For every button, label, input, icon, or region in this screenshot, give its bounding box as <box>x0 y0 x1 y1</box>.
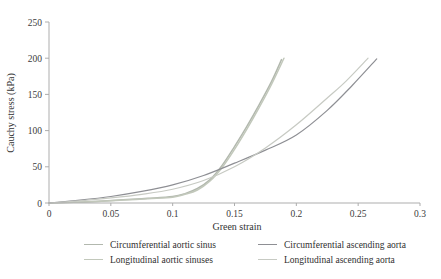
legend-line-icon <box>258 259 277 260</box>
legend-item-longitudinal-aortic-sinuses: Longitudinal aortic sinuses <box>84 252 216 267</box>
legend-column-left: Circumferential aortic sinus Longitudina… <box>84 237 216 267</box>
y-tick-label: 150 <box>28 90 43 100</box>
x-tick-label: 0 <box>47 209 52 219</box>
legend-item-circumferential-aortic-sinus: Circumferential aortic sinus <box>84 237 216 252</box>
curve-group <box>49 58 377 203</box>
legend: Circumferential aortic sinus Longitudina… <box>0 237 441 273</box>
legend-label: Longitudinal ascending aorta <box>284 255 395 265</box>
y-tick-label: 200 <box>28 54 43 64</box>
y-axis-label: Cauchy stress (kPa) <box>5 73 17 152</box>
legend-label: Circumferential ascending aorta <box>284 240 406 250</box>
stress-strain-figure: 05010015020025000.050.10.150.20.250.3 Gr… <box>0 0 441 279</box>
legend-label: Longitudinal aortic sinuses <box>110 255 213 265</box>
series-curve <box>49 59 377 203</box>
series-curve <box>49 60 281 203</box>
y-tick-label: 100 <box>28 126 43 136</box>
x-axis-label: Green strain <box>212 221 261 232</box>
legend-column-right: Circumferential ascending aorta Longitud… <box>258 237 406 267</box>
legend-item-circumferential-ascending-aorta: Circumferential ascending aorta <box>258 237 406 252</box>
y-tick-label: 250 <box>28 18 43 28</box>
y-tick-label: 0 <box>37 199 42 209</box>
chart-canvas: 05010015020025000.050.10.150.20.250.3 Gr… <box>0 0 441 236</box>
tick-group: 05010015020025000.050.10.150.20.250.3 <box>28 18 426 220</box>
x-tick-label: 0.05 <box>103 209 120 219</box>
x-tick-label: 0.2 <box>290 209 302 219</box>
x-tick-label: 0.25 <box>350 209 367 219</box>
series-curve <box>49 58 284 203</box>
x-tick-label: 0.1 <box>167 209 179 219</box>
legend-line-icon <box>84 259 103 260</box>
legend-line-icon <box>84 244 103 245</box>
legend-item-longitudinal-ascending-aorta: Longitudinal ascending aorta <box>258 252 406 267</box>
x-tick-label: 0.15 <box>226 209 243 219</box>
x-tick-label: 0.3 <box>414 209 426 219</box>
legend-label: Circumferential aortic sinus <box>110 240 216 250</box>
axes-group <box>49 22 420 203</box>
y-tick-label: 50 <box>33 162 43 172</box>
legend-line-icon <box>258 244 277 245</box>
